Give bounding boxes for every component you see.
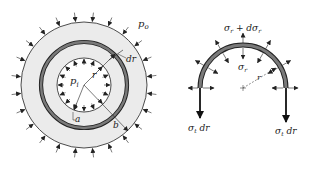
pressure-arrow [40,136,45,143]
pressure-arrow [92,13,93,22]
pressure-arrow [258,53,264,63]
pressure-arrow [12,76,21,77]
label-po: po [138,18,149,31]
cylinder-stress-diagram: po pi r dr a b σr + dσr σr r σt dr σt dr [0,0,311,173]
pressure-arrow [208,68,218,74]
pressure-arrow [195,61,204,66]
label-a: a [75,114,80,124]
pressure-arrow [40,27,45,34]
pressure-arrow [17,57,25,60]
label-sigma-r-plus: σr + dσr [224,23,262,34]
pressure-arrow [135,41,142,46]
pressure-arrow [74,13,75,22]
pressure-arrow [282,61,291,66]
pressure-arrow [123,27,128,34]
label-sigma-r: σr [238,62,248,73]
pressure-arrow [92,148,93,157]
pressure-arrow [135,124,142,129]
pressure-arrow [266,40,271,49]
pressure-arrow [216,40,221,49]
pressure-arrow [56,18,59,26]
pressure-arrow [26,41,33,46]
half-ring-free-body: σr + dσr σr r σt dr σt dr [188,23,298,137]
pressure-arrow [56,144,59,152]
outer-radial-stress-arrows [188,33,298,88]
pressure-arrow [108,18,111,26]
label-right-sigma-t-dr: σt dr [275,126,297,137]
pressure-arrow [26,124,33,129]
pressure-arrow [109,144,112,152]
pressure-arrow [17,110,25,113]
pressure-arrow [12,93,21,94]
pressure-arrow [75,148,76,157]
pressure-arrow [223,53,229,63]
label-b: b [113,120,119,130]
pressure-arrow [143,109,151,112]
pressure-arrow [123,136,128,143]
pressure-arrow [147,75,156,76]
pressure-arrow [268,68,278,74]
label-left-sigma-t-dr: σt dr [188,123,210,134]
label-r: r [92,70,97,80]
pressure-arrow [147,93,156,94]
cylinder-cross-section: po pi r dr a b [12,13,157,158]
label-dr: dr [126,54,137,64]
label-r-right: r [257,73,262,82]
pressure-arrow [143,57,151,60]
